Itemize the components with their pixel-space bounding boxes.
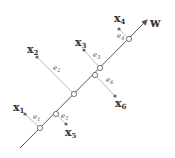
error-label-1: e1	[33, 113, 40, 122]
point-label-5: x5	[65, 126, 77, 140]
w-axis-label: w	[149, 16, 161, 30]
error-label-5: e5	[61, 112, 68, 121]
point-label-3: x3	[75, 36, 87, 50]
projection-point-2	[71, 91, 76, 96]
error-label-6: e6	[106, 76, 114, 85]
projection-point-1	[37, 125, 42, 130]
point-label-2: x2	[27, 43, 39, 57]
projection-point-6	[92, 72, 97, 77]
projection-diagram: x1e1x2e2x3e3x4e4x5e5x6e6 w	[0, 0, 175, 158]
error-label-2: e2	[53, 64, 60, 73]
point-label-6: x6	[115, 97, 127, 111]
error-line-2	[37, 57, 74, 94]
projection-point-5	[53, 111, 58, 116]
data-point-4	[117, 27, 120, 30]
projection-point-3	[97, 65, 102, 70]
error-label-3: e3	[93, 51, 100, 60]
point-label-1: x1	[13, 101, 25, 115]
point-label-4: x4	[114, 12, 126, 26]
projection-point-4	[126, 36, 131, 41]
